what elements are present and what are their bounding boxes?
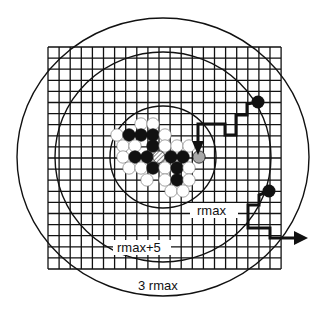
candidate-site-particle <box>159 129 171 141</box>
seed-particle <box>153 151 165 163</box>
candidate-site-particle <box>123 162 135 174</box>
walker-start-dot <box>252 96 265 109</box>
aggregate-particle <box>147 162 159 174</box>
aggregate-particle <box>147 129 159 141</box>
candidate-site-particle <box>165 185 177 197</box>
candidate-site-particle <box>129 140 141 152</box>
aggregate-particle <box>171 174 183 186</box>
aggregate-particle <box>129 151 141 163</box>
candidate-site-particle <box>111 129 123 141</box>
candidate-site-particle <box>117 151 129 163</box>
rmax-label: rmax <box>197 203 226 218</box>
walker-start-dot <box>263 185 276 198</box>
candidate-site-particle <box>171 140 183 152</box>
aggregate-particle <box>165 151 177 163</box>
diagram-canvas: rmax rmax+5 3 rmax <box>0 0 327 310</box>
three-rmax-label: 3 rmax <box>138 278 178 293</box>
aggregate-particle <box>147 140 159 152</box>
arrowhead-icon <box>294 231 308 245</box>
candidate-site-particle <box>159 140 171 152</box>
candidate-site-particle <box>177 185 189 197</box>
aggregate-particle <box>141 151 153 163</box>
walker-escapes-path <box>248 191 298 238</box>
random-walkers <box>192 96 308 246</box>
dla-diagram: rmax rmax+5 3 rmax <box>0 0 327 310</box>
candidate-site-particle <box>183 174 195 186</box>
candidate-site-particle <box>117 140 129 152</box>
circle-labels: rmax rmax+5 3 rmax <box>113 203 238 293</box>
candidate-site-particle <box>141 174 153 186</box>
aggregate-particle <box>135 129 147 141</box>
candidate-site-particle <box>135 118 147 130</box>
aggregate-particle <box>171 162 183 174</box>
rmax-plus-5-label: rmax+5 <box>117 240 161 255</box>
candidate-site-particle <box>159 174 171 186</box>
aggregate-particle <box>123 129 135 141</box>
candidate-site-particle <box>135 162 147 174</box>
candidate-site-particle <box>147 118 159 130</box>
aggregate-particle <box>177 151 189 163</box>
candidate-site-particle <box>183 162 195 174</box>
candidate-site-particle <box>159 162 171 174</box>
